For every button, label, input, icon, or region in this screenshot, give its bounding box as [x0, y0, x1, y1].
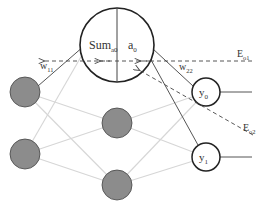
input-node-1: [10, 77, 40, 107]
output-node-y0: y0: [192, 78, 220, 106]
weight-label-w11: w11: [40, 60, 54, 73]
error-line-eo2: [139, 70, 253, 135]
hidden-node-detail: Suma0 a0: [80, 8, 154, 82]
error-propagation-lines: [44, 61, 253, 135]
activation-subscript: 0: [133, 46, 137, 54]
sum-subscript: a0: [111, 46, 118, 54]
hidden-node-2: [102, 170, 132, 200]
error-label-eo1: Eo1: [237, 48, 250, 61]
error-label-eo2: Eo2: [243, 122, 256, 135]
hidden-node-1: [102, 108, 132, 138]
neural-network-diagram: Suma0 a0 y0 y1 w11 w22 Eo1 Eo2: [0, 0, 265, 212]
sum-label: Sum: [89, 38, 112, 52]
weight-label-w22: w22: [179, 61, 193, 74]
output-node-y1: y1: [192, 143, 220, 171]
input-node-2: [10, 139, 40, 169]
